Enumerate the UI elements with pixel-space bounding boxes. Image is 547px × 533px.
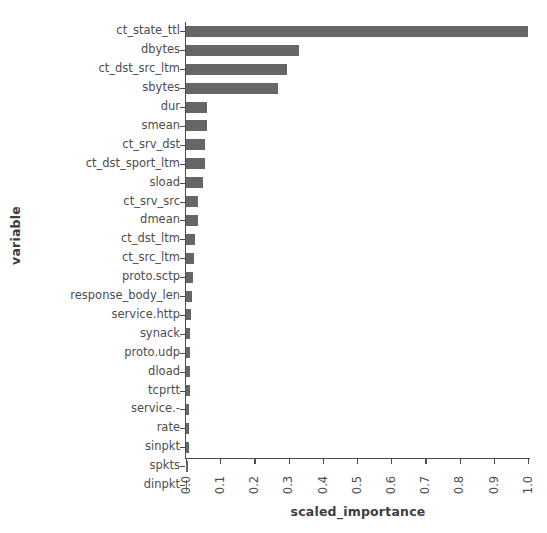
bar-row xyxy=(186,117,207,136)
x-tick-label-text: 0.4 xyxy=(316,476,330,494)
bar-row xyxy=(186,249,194,268)
y-tick-mark xyxy=(180,391,185,392)
bar-row xyxy=(186,22,528,41)
y-tick-label: dbytes xyxy=(141,44,180,56)
bar xyxy=(186,423,189,434)
y-tick-label: tcprtt xyxy=(148,385,180,397)
bar xyxy=(186,442,189,453)
y-tick-mark xyxy=(180,447,185,448)
x-tick-mark xyxy=(528,459,529,464)
y-tick-label: smean xyxy=(141,120,180,132)
y-tick-label: dur xyxy=(161,101,180,113)
bar-row xyxy=(186,438,189,457)
bar-row xyxy=(186,287,192,306)
x-tick-label: 0.4 xyxy=(316,466,330,502)
bar-row xyxy=(186,173,203,192)
x-tick-label-text: 0.8 xyxy=(453,476,467,494)
y-tick-label: dmean xyxy=(140,214,180,226)
y-tick-label: dinpkt xyxy=(144,479,180,491)
bar xyxy=(186,83,278,94)
y-tick-label: ct_src_ltm xyxy=(122,252,180,264)
bar-row xyxy=(186,154,205,173)
x-axis-title: scaled_importance xyxy=(186,504,530,519)
x-tick-label: 0.6 xyxy=(384,466,398,502)
y-tick-mark xyxy=(180,164,185,165)
bar xyxy=(186,64,287,75)
bar xyxy=(186,234,195,245)
bar-row xyxy=(186,41,299,60)
bar xyxy=(186,291,192,302)
y-tick-mark xyxy=(180,409,185,410)
y-tick-mark xyxy=(180,334,185,335)
y-tick-label: service.- xyxy=(131,403,180,415)
y-tick-mark xyxy=(180,145,185,146)
y-tick-mark xyxy=(180,353,185,354)
x-tick-mark xyxy=(357,459,358,464)
bar-row xyxy=(186,192,198,211)
y-tick-label: ct_dst_src_ltm xyxy=(98,63,180,75)
y-tick-mark xyxy=(180,50,185,51)
y-tick-mark xyxy=(180,315,185,316)
x-tick-label-text: 0.9 xyxy=(487,476,501,494)
y-tick-label: dload xyxy=(148,366,180,378)
bar xyxy=(186,347,190,358)
y-tick-mark xyxy=(180,428,185,429)
bar-row xyxy=(186,343,190,362)
y-tick-mark xyxy=(180,258,185,259)
y-tick-label: sinpkt xyxy=(145,441,180,453)
x-tick-label-text: 0.1 xyxy=(213,476,227,494)
bar xyxy=(186,366,190,377)
x-tick-mark xyxy=(220,459,221,464)
bar-row xyxy=(186,400,189,419)
x-tick-label: 0.3 xyxy=(282,466,296,502)
y-tick-label: sload xyxy=(149,177,180,189)
bar xyxy=(186,45,299,56)
y-tick-label: service.http xyxy=(112,309,180,321)
bar-row xyxy=(186,362,190,381)
y-tick-label: spkts xyxy=(150,460,180,472)
bar xyxy=(186,158,205,169)
y-axis-line xyxy=(185,22,186,459)
bar-row xyxy=(186,211,198,230)
y-tick-mark xyxy=(180,239,185,240)
y-tick-label: ct_srv_dst xyxy=(122,139,180,151)
x-tick-label-text: 0.2 xyxy=(247,476,261,494)
y-tick-mark xyxy=(180,183,185,184)
bar xyxy=(186,253,194,264)
x-tick-label-text: 0.3 xyxy=(282,476,296,494)
x-tick-label: 0.8 xyxy=(453,466,467,502)
y-tick-label: sbytes xyxy=(142,82,180,94)
bar-row xyxy=(186,381,190,400)
bar-row xyxy=(186,306,191,325)
bar-row xyxy=(186,98,207,117)
y-tick-label: response_body_len xyxy=(70,290,180,302)
bar xyxy=(186,102,207,113)
y-tick-mark xyxy=(180,202,185,203)
x-tick-label-text: 1.0 xyxy=(521,476,535,494)
x-tick-mark xyxy=(254,459,255,464)
x-tick-label: 0.2 xyxy=(247,466,261,502)
x-tick-label-text: 0.7 xyxy=(418,476,432,494)
bar-row xyxy=(186,230,195,249)
bar-row xyxy=(186,268,193,287)
bar-row xyxy=(186,135,205,154)
y-tick-label: ct_state_ttl xyxy=(116,25,180,37)
y-tick-mark xyxy=(180,69,185,70)
x-tick-label: 0.1 xyxy=(213,466,227,502)
y-tick-mark xyxy=(180,466,185,467)
bar-row xyxy=(186,324,190,343)
y-tick-mark xyxy=(180,277,185,278)
bar xyxy=(186,404,189,415)
y-tick-mark xyxy=(180,296,185,297)
y-tick-mark xyxy=(180,126,185,127)
bar xyxy=(186,272,193,283)
bar-row xyxy=(186,419,189,438)
y-tick-label: proto.sctp xyxy=(122,271,180,283)
bar xyxy=(186,26,528,37)
bar xyxy=(186,120,207,131)
y-tick-mark xyxy=(180,220,185,221)
y-tick-label: proto.udp xyxy=(124,347,180,359)
y-tick-mark xyxy=(180,372,185,373)
y-axis-tick-labels: ct_state_ttldbytesct_dst_src_ltmsbytesdu… xyxy=(0,22,180,458)
plot-area xyxy=(186,22,528,458)
